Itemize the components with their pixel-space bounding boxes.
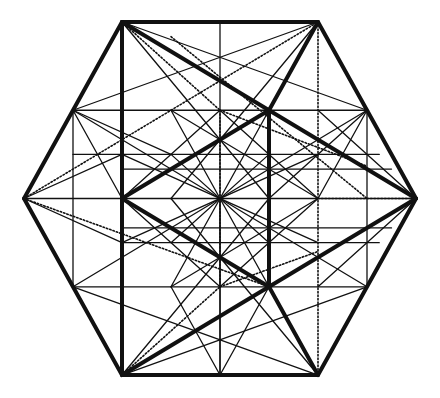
hexagon-diagram — [0, 0, 440, 398]
